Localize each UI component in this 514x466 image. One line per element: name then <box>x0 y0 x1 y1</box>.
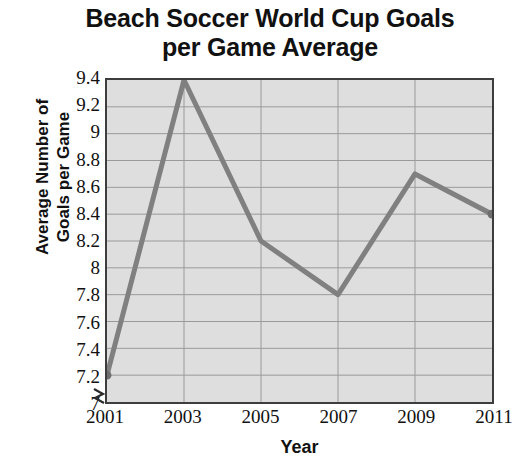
y-axis-tick-label: 9 <box>44 122 100 141</box>
y-axis-tick-label: 9.2 <box>44 95 100 114</box>
x-axis-tick-label: 2005 <box>221 406 301 428</box>
chart-title-line-1: Beach Soccer World Cup Goals <box>40 4 500 33</box>
y-axis-tick-label: 8.4 <box>44 204 100 223</box>
plot-area <box>105 78 494 404</box>
x-axis-tick-label: 2007 <box>298 406 378 428</box>
x-axis-tick-label: 2011 <box>454 406 514 428</box>
x-axis-title: Year <box>105 437 494 458</box>
x-axis-tick-label: 2001 <box>65 406 145 428</box>
y-axis-tick-label: 8.6 <box>44 177 100 196</box>
y-axis-tick-label: 8 <box>44 258 100 277</box>
y-axis-tick-label: 8.2 <box>44 231 100 250</box>
y-axis-tick-label: 7.2 <box>44 367 100 386</box>
y-axis-tick-label: 8.8 <box>44 150 100 169</box>
data-point-marker <box>107 371 111 380</box>
x-axis-tick-label: 2009 <box>376 406 456 428</box>
x-axis-tick-label: 2003 <box>143 406 223 428</box>
data-line-series-1 <box>107 80 492 375</box>
chart-title: Beach Soccer World Cup Goals per Game Av… <box>40 4 500 62</box>
y-axis-tick-label: 7.6 <box>44 313 100 332</box>
chart-figure: Beach Soccer World Cup Goals per Game Av… <box>0 0 514 466</box>
y-axis-tick-label: 7.8 <box>44 285 100 304</box>
axis-break-icon <box>92 385 114 407</box>
y-axis-tick-label: 9.4 <box>44 68 100 87</box>
y-axis-tick-label: 7.4 <box>44 340 100 359</box>
chart-line-plot <box>107 80 492 402</box>
x-axis-tick-labels: 200120032005200720092011 <box>0 406 514 436</box>
chart-title-line-2: per Game Average <box>40 33 500 62</box>
